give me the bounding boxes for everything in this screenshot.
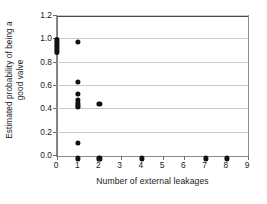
data-point — [76, 39, 81, 44]
y-tick-mark — [53, 62, 57, 63]
gridline — [57, 15, 248, 16]
x-tick-label: 9 — [245, 160, 250, 170]
gridline — [57, 38, 248, 39]
gridline — [57, 62, 248, 63]
y-tick-label: 1.0 — [28, 33, 52, 43]
x-axis-title: Number of external leakages — [56, 176, 249, 186]
y-tick-mark — [53, 15, 57, 16]
x-tick-label: 4 — [139, 160, 144, 170]
x-tick-label: 5 — [160, 160, 165, 170]
x-tick-label: 6 — [181, 160, 186, 170]
y-tick-label: 1.2 — [28, 10, 52, 20]
x-tick-label: 8 — [223, 160, 228, 170]
y-axis-title-line1: Estimated probability of being a — [5, 21, 16, 138]
y-tick-label: 0.4 — [28, 103, 52, 113]
x-tick-label: 1 — [75, 160, 80, 170]
data-point — [76, 80, 81, 85]
x-tick-label: 3 — [117, 160, 122, 170]
data-point — [97, 101, 102, 106]
y-tick-mark — [53, 85, 57, 86]
y-axis-tick-labels: 0.00.20.40.60.81.01.2 — [26, 0, 52, 204]
y-tick-mark — [53, 132, 57, 133]
x-axis-tick-labels: 0123456789 — [56, 160, 249, 174]
data-point — [76, 141, 81, 146]
gridline — [57, 85, 248, 86]
gridline — [57, 132, 248, 133]
x-tick-label: 7 — [202, 160, 207, 170]
scatter-plot-figure: Estimated probability of being a good va… — [0, 0, 267, 204]
data-point — [76, 92, 81, 97]
y-tick-label: 0.0 — [28, 150, 52, 160]
x-tick-label: 0 — [54, 160, 59, 170]
y-tick-label: 0.8 — [28, 57, 52, 67]
gridline — [57, 108, 248, 109]
data-point-cluster — [54, 37, 59, 56]
y-tick-label: 0.6 — [28, 80, 52, 90]
x-axis-baseline — [57, 16, 248, 17]
y-axis-title-line2: good valve — [15, 21, 26, 138]
plot-area — [56, 15, 249, 157]
y-tick-label: 0.2 — [28, 127, 52, 137]
x-tick-label: 2 — [96, 160, 101, 170]
y-tick-mark — [53, 108, 57, 109]
